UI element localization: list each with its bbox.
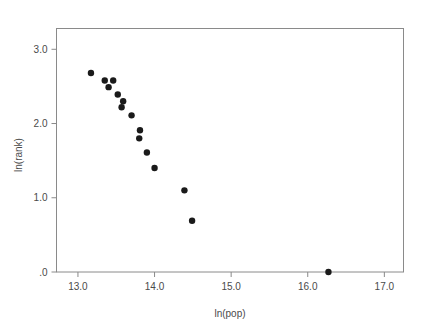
- data-point: [120, 98, 126, 104]
- scatter-chart: 13.014.015.016.017.0 .01.02.03.0 ln(pop)…: [0, 0, 421, 329]
- y-tick-label: 1.0: [34, 192, 48, 203]
- data-point: [136, 135, 142, 141]
- data-point: [110, 77, 116, 83]
- y-tick-label: 3.0: [34, 44, 48, 55]
- x-axis-title: ln(pop): [214, 308, 245, 319]
- plot-canvas: 13.014.015.016.017.0 .01.02.03.0 ln(pop)…: [0, 0, 421, 329]
- x-tick-label: 15.0: [221, 281, 241, 292]
- y-tick-label: 2.0: [34, 118, 48, 129]
- y-axis-title: ln(rank): [13, 138, 24, 172]
- data-point: [144, 149, 150, 155]
- data-point: [137, 127, 143, 133]
- x-tick-label: 13.0: [68, 281, 88, 292]
- data-point: [115, 91, 121, 97]
- y-tick-label: .0: [39, 267, 48, 278]
- chart-background: [0, 0, 421, 329]
- data-point: [325, 269, 331, 275]
- data-point: [189, 218, 195, 224]
- data-point: [151, 165, 157, 171]
- x-tick-label: 16.0: [298, 281, 318, 292]
- data-point: [105, 84, 111, 90]
- x-tick-label: 17.0: [375, 281, 395, 292]
- x-tick-label: 14.0: [145, 281, 165, 292]
- data-point: [102, 77, 108, 83]
- data-point: [88, 70, 94, 76]
- data-point: [118, 104, 124, 110]
- data-point: [128, 112, 134, 118]
- data-point: [181, 187, 187, 193]
